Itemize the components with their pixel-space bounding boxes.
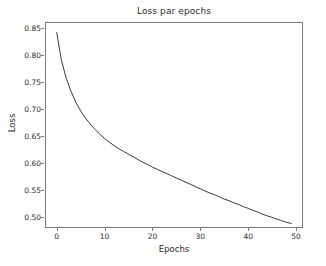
y-tick-mark xyxy=(41,109,44,110)
y-tick-label: 0.80 xyxy=(13,51,41,60)
figure-canvas: Loss par epochs Loss 0.500.550.600.650.7… xyxy=(0,0,326,266)
y-tick-label: 0.85 xyxy=(13,24,41,33)
y-tick-mark xyxy=(41,190,44,191)
y-tick-label: 0.65 xyxy=(13,132,41,141)
x-axis-label: Epochs xyxy=(45,244,303,254)
y-tick-label: 0.50 xyxy=(13,213,41,222)
loss-line xyxy=(57,33,292,224)
x-tick-label: 20 xyxy=(137,232,167,241)
x-tick-label: 0 xyxy=(42,232,72,241)
y-tick-label: 0.70 xyxy=(13,105,41,114)
y-tick-mark xyxy=(41,28,44,29)
y-axis-tick-labels: 0.500.550.600.650.700.750.800.85 xyxy=(8,0,41,266)
x-tick-mark xyxy=(152,228,153,231)
chart-title: Loss par epochs xyxy=(45,6,303,16)
y-tick-mark xyxy=(41,163,44,164)
y-tick-label: 0.60 xyxy=(13,159,41,168)
y-tick-label: 0.55 xyxy=(13,186,41,195)
y-tick-mark xyxy=(41,136,44,137)
y-tick-mark xyxy=(41,217,44,218)
x-tick-mark xyxy=(57,228,58,231)
y-tick-mark xyxy=(41,55,44,56)
y-tick-mark xyxy=(41,82,44,83)
x-tick-mark xyxy=(296,228,297,231)
x-tick-label: 50 xyxy=(281,232,311,241)
x-tick-label: 30 xyxy=(185,232,215,241)
x-tick-mark xyxy=(200,228,201,231)
loss-curve-plot xyxy=(45,22,303,228)
x-tick-label: 10 xyxy=(90,232,120,241)
x-tick-mark xyxy=(105,228,106,231)
x-tick-mark xyxy=(248,228,249,231)
x-tick-label: 40 xyxy=(233,232,263,241)
y-tick-label: 0.75 xyxy=(13,78,41,87)
